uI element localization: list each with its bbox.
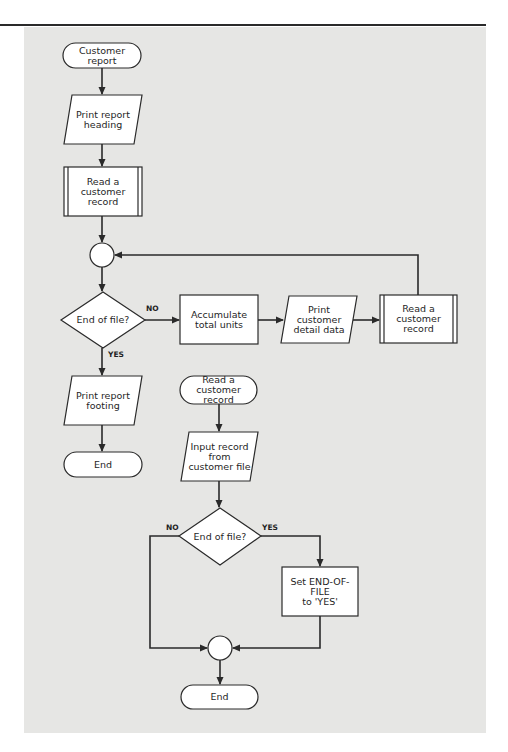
decision-1-label: End of file? (61, 292, 145, 348)
decision-1-yes-tag: YES (108, 350, 124, 359)
read-record-2-label: Read a customer record (380, 295, 457, 343)
end-terminal-2-label: End (181, 685, 258, 709)
decision-2-label: End of file? (179, 508, 261, 565)
set-eof-label: Set END-OF-FILE to 'YES' (282, 567, 358, 616)
sub-start-label: Read a customer record (180, 376, 257, 404)
print-detail-label: Print customer detail data (281, 296, 357, 343)
connector-2 (208, 636, 232, 660)
flow-arrows (102, 68, 418, 684)
print-footing-label: Print report footing (64, 376, 142, 425)
print-heading-label: Print report heading (64, 95, 142, 144)
connector-1 (90, 243, 114, 267)
accumulate-label: Accumulate total units (180, 295, 258, 344)
end-terminal-1-label: End (64, 452, 142, 477)
input-record-label: Input record from customer file (181, 432, 258, 481)
start-terminal-label: Customer report (63, 43, 141, 68)
decision-1-no-tag: NO (146, 304, 159, 313)
decision-2-no-tag: NO (166, 523, 179, 532)
decision-2-yes-tag: YES (262, 523, 278, 532)
read-record-1-label: Read a customer record (64, 167, 142, 216)
